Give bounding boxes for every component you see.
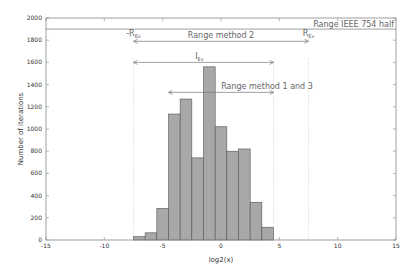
- x-tick-label: -5: [160, 242, 166, 249]
- y-axis-label: Number of iterations: [17, 92, 25, 165]
- x-tick-label: 0: [219, 242, 223, 249]
- rev-label: REv: [303, 29, 315, 39]
- histogram-bar: [250, 202, 262, 240]
- histogram-bar: [145, 233, 157, 240]
- histogram-bars: [134, 67, 274, 240]
- neg-rev-label: -REv: [126, 29, 141, 39]
- histogram-bar: [227, 151, 239, 240]
- method13-range-label: Range method 1 and 3: [221, 82, 313, 91]
- histogram-bar: [169, 114, 181, 240]
- range-annotations: Range IEEE 754 halfRange method 2IEvRang…: [46, 20, 396, 94]
- method2-range-label: Range method 2: [188, 31, 254, 40]
- y-tick-label: 1800: [27, 36, 42, 43]
- x-tick-label: 5: [277, 242, 281, 249]
- iev-label: IEv: [195, 52, 204, 62]
- x-tick-label: -15: [41, 242, 51, 249]
- y-tick-label: 200: [31, 214, 43, 221]
- y-tick-label: 1400: [27, 81, 42, 88]
- histogram-bar: [204, 67, 216, 240]
- x-tick-label: 15: [392, 242, 400, 249]
- y-tick-label: 600: [31, 169, 43, 176]
- chart-canvas: -15-10-505101502004006008001000120014001…: [0, 0, 414, 272]
- histogram-bar: [180, 99, 192, 240]
- y-tick-label: 1200: [27, 103, 42, 110]
- histogram-bar: [157, 208, 169, 240]
- y-tick-label: 0: [38, 236, 42, 243]
- x-axis-label: log2(x): [209, 256, 234, 264]
- y-tick-label: 2000: [27, 14, 42, 21]
- y-tick-label: 400: [31, 192, 43, 199]
- y-tick-label: 1600: [27, 58, 42, 65]
- ieee-range-label: Range IEEE 754 half: [313, 20, 394, 29]
- y-tick-label: 1000: [27, 125, 42, 132]
- histogram-bar: [239, 149, 251, 240]
- histogram-bar: [134, 237, 146, 240]
- histogram-chart: -15-10-505101502004006008001000120014001…: [0, 0, 414, 272]
- histogram-bar: [192, 158, 204, 240]
- x-tick-label: 10: [334, 242, 342, 249]
- histogram-bar: [262, 227, 274, 240]
- histogram-bar: [215, 127, 227, 240]
- x-tick-label: -10: [99, 242, 109, 249]
- y-tick-label: 800: [31, 147, 43, 154]
